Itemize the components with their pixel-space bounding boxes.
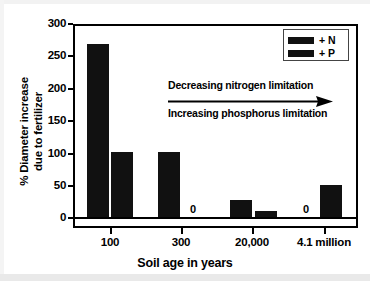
bar-300-plus-p-zero-label: 0 — [183, 203, 203, 215]
annotation-arrow-icon — [168, 96, 333, 107]
annotation-increasing-phosphorus: Increasing phosphorus limitation — [168, 107, 327, 119]
x-tick-mark-41million — [324, 228, 326, 234]
scan-edge-bottom — [0, 274, 370, 281]
y-tick-label-250: 250 — [32, 49, 66, 61]
x-tick-mark-20000 — [252, 228, 254, 234]
chart-legend: + N + P — [283, 29, 349, 61]
bar-41million-plus-n-zero-label: 0 — [296, 203, 316, 215]
x-tick-label-41million: 4.1 million — [284, 236, 364, 248]
bar-41million-plus-p — [320, 185, 342, 217]
y-axis-label: % Diameter increase due to fertilizer — [18, 37, 45, 227]
x-tick-mark-300 — [181, 228, 183, 234]
zero-baseline — [73, 217, 358, 219]
bar-20000-plus-p — [255, 211, 277, 217]
y-tick-label-0: 0 — [32, 211, 66, 223]
scan-edge-top — [0, 0, 370, 4]
bar-100-plus-n — [87, 44, 109, 217]
x-tick-label-100: 100 — [70, 236, 150, 248]
y-tick-label-100: 100 — [32, 147, 66, 159]
bar-300-plus-n — [158, 152, 180, 217]
bar-20000-plus-n — [230, 200, 252, 217]
y-tick-label-200: 200 — [32, 82, 66, 94]
scan-edge-left — [0, 0, 4, 281]
y-axis-label-line2: due to fertilizer — [31, 37, 45, 227]
y-tick-label-50: 50 — [32, 179, 66, 191]
legend-label-plus-n: + N — [319, 34, 336, 46]
legend-label-plus-p: + P — [319, 47, 335, 59]
legend-swatch-plus-p — [288, 50, 314, 57]
bar-100-plus-p — [111, 152, 133, 217]
y-tick-label-300: 300 — [32, 17, 66, 29]
legend-swatch-plus-n — [288, 37, 314, 44]
x-tick-label-20000: 20,000 — [212, 236, 292, 248]
chart-figure: % Diameter increase due to fertilizer 30… — [0, 0, 370, 281]
x-tick-label-300: 300 — [141, 236, 221, 248]
x-axis-label: Soil age in years — [0, 256, 370, 270]
y-axis-label-line1: % Diameter increase — [18, 77, 30, 186]
x-tick-mark-100 — [110, 228, 112, 234]
annotation-decreasing-nitrogen: Decreasing nitrogen limitation — [168, 79, 313, 91]
y-tick-label-150: 150 — [32, 114, 66, 126]
